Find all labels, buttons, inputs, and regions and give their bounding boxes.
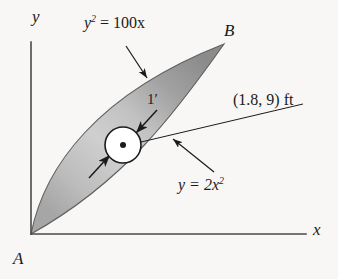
y-axis-label: y bbox=[32, 8, 40, 25]
circular-hole bbox=[105, 127, 141, 163]
x-axis-label: x bbox=[313, 221, 321, 238]
leader-lower-curve bbox=[173, 139, 214, 172]
leader-upper-curve bbox=[126, 46, 147, 78]
figure-canvas: y2 = 100x y = 2x2 (1.8, 9) ft 1′ y x A B bbox=[0, 0, 338, 279]
hole-center-dot bbox=[120, 142, 126, 148]
curve-lower-equation-label: y = 2x2 bbox=[178, 176, 224, 193]
centroid-coordinate-label: (1.8, 9) ft bbox=[233, 92, 293, 108]
curve-upper-equation-label: y2 = 100x bbox=[84, 14, 145, 31]
point-b-label: B bbox=[224, 22, 234, 39]
curve-lower-exponent: 2 bbox=[219, 175, 224, 186]
curve-upper-tail: = 100x bbox=[96, 14, 145, 31]
diagram-svg bbox=[0, 0, 338, 279]
hole-diameter-label: 1′ bbox=[147, 92, 158, 107]
curve-lower-head: y = 2x bbox=[178, 176, 219, 193]
point-a-label: A bbox=[13, 250, 23, 267]
